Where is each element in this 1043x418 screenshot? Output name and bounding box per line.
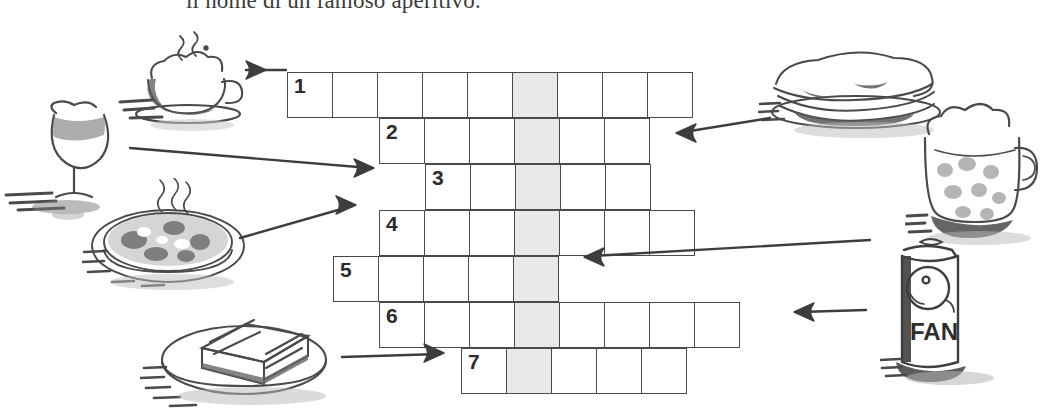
arrow-wine-to-row3 [130,148,374,177]
arrow-toast-to-row7 [342,344,444,362]
arrow-cappuccino-to-row1 [246,61,286,79]
arrow-panino-to-row2 [676,118,770,142]
arrow-beermug-to-row6 [794,303,866,321]
arrow-can-to-row5 [584,240,870,266]
arrow-pizza-to-row4 [240,196,356,238]
